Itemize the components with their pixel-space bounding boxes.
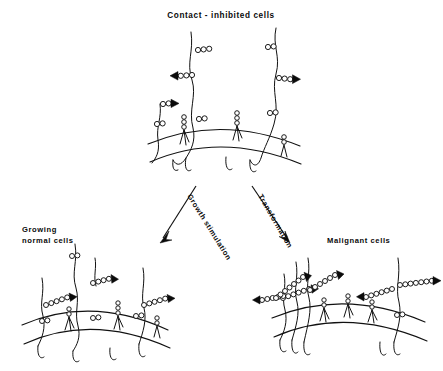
panel-contact-inhibited [148,28,301,172]
panel-title-contact-inhibited: Contact - inhibited cells [167,11,274,20]
filament-tail [139,344,145,357]
membrane-receptor [320,298,329,322]
arrowhead [293,75,301,84]
filament-tail [185,158,191,171]
filament-tail [280,340,286,352]
arrowhead [253,296,261,304]
bead-chain [40,318,50,324]
filament-tail [304,342,310,355]
membrane-outer-line [148,129,300,146]
arrow-transformation: Transformation [252,186,294,250]
bead-chain-with-arrowhead [170,72,195,81]
arrow-label-transformation: Transformation [256,193,294,250]
panel-growing-normal-cells [22,244,175,362]
membrane-receptor [281,135,287,157]
arrowhead [337,271,345,280]
bead-chain-with-arrowhead [276,75,300,84]
filament-tail [38,346,44,358]
membrane-receptor [180,115,189,145]
bead-chain-with-arrowhead [142,294,176,307]
bead-chain [196,116,207,122]
arrowhead [171,99,179,107]
membrane-receptor [154,316,160,338]
membrane-receptor [368,300,377,323]
membrane-receptor [114,301,123,330]
panel-malignant-cells [253,258,442,355]
filament-tail [380,342,386,355]
bead-chain [134,313,144,319]
filament [152,104,160,163]
filament [304,258,310,342]
bead-chain [154,121,165,127]
filament-tail [292,340,298,353]
bead-chain-with-arrowhead [398,277,442,288]
arrow-growth-stimulation: Growth stimulation [160,186,233,262]
filament-tail [226,157,232,170]
arrowhead [69,293,77,301]
panel-title-growing-normal-cells-line2: normal cells [22,236,74,245]
membrane-receptor [65,307,74,331]
membrane-inner-line [274,322,427,341]
membrane-receptor [344,294,353,318]
filament-tail [394,342,400,355]
arrowhead [304,272,312,281]
arrowhead [167,294,175,302]
arrowhead [111,275,119,284]
figure-canvas: Contact - inhibited cells [0,0,443,371]
bead-chain-with-arrowhead [160,99,179,107]
filament [173,32,194,164]
arrowhead [170,72,178,81]
panel-title-malignant-cells: Malignant cells [327,236,390,245]
panel-title-growing-normal-cells: Growing [22,225,57,234]
bead-chain [195,46,211,52]
filament [280,274,286,340]
arrow-label-growth-stimulation: Growth stimulation [185,192,233,262]
filament-tail [73,351,79,362]
bead-chain [91,315,101,321]
bead-chain-with-arrowhead [44,293,78,307]
bead-chain [267,110,278,116]
bead-chain [265,44,276,50]
filament [38,278,44,346]
membrane-inner-line [24,329,170,348]
arrowhead [357,293,365,301]
filament-tail [110,348,116,360]
membrane-receptor [233,111,242,141]
bead-chain-with-arrowhead [357,287,395,302]
bead-chain [70,253,80,259]
arrowhead [433,277,441,286]
